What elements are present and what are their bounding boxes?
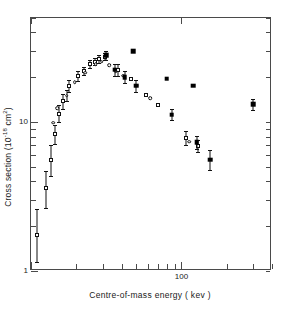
error-cap-lower bbox=[195, 149, 199, 150]
data-point-open-circles bbox=[73, 81, 77, 85]
data-point-open-squares bbox=[44, 186, 48, 190]
x-tick-200 bbox=[227, 264, 228, 269]
error-cap-lower bbox=[88, 68, 92, 69]
error-cap-upper bbox=[53, 125, 57, 126]
error-cap-upper bbox=[251, 99, 255, 100]
error-cap-lower bbox=[196, 152, 200, 153]
x-tick-400 bbox=[272, 264, 273, 269]
error-cap-lower bbox=[123, 83, 127, 84]
error-cap-upper bbox=[44, 171, 48, 172]
error-cap-lower bbox=[251, 110, 255, 111]
y-tick-20 bbox=[31, 77, 36, 78]
error-cap-upper bbox=[123, 71, 127, 72]
x-tick-100 bbox=[181, 262, 182, 269]
y-tick-2 bbox=[31, 226, 36, 227]
data-point-filled-squares bbox=[194, 140, 199, 145]
data-point-filled-squares bbox=[122, 75, 127, 80]
y-tick-right-8 bbox=[266, 137, 270, 138]
error-cap-upper bbox=[35, 209, 39, 210]
error-cap-upper bbox=[67, 80, 71, 81]
error-cap-upper bbox=[93, 58, 97, 59]
error-cap-lower bbox=[116, 76, 120, 77]
y-tick-6 bbox=[31, 155, 36, 156]
y-tick-right-6 bbox=[266, 155, 270, 156]
y-tick-1 bbox=[31, 271, 38, 272]
error-cap-upper bbox=[82, 67, 86, 68]
y-tick-30 bbox=[31, 51, 36, 52]
data-point-open-squares bbox=[129, 77, 133, 81]
error-cap-upper bbox=[208, 150, 212, 151]
figure-scatter-plot: Cross section (10-18 cm2) Centre-of-mass… bbox=[0, 0, 284, 313]
x-tick-20 bbox=[76, 264, 77, 269]
error-cap-upper bbox=[49, 145, 53, 146]
data-point-open-squares bbox=[76, 74, 80, 78]
error-cap-upper bbox=[76, 71, 80, 72]
y-tick-40 bbox=[31, 32, 36, 33]
x-tick-40 bbox=[122, 264, 123, 269]
error-cap-lower bbox=[53, 144, 57, 145]
y-tick-7 bbox=[31, 145, 36, 146]
y-tick-right-30 bbox=[266, 51, 270, 52]
data-point-filled-squares bbox=[251, 102, 256, 107]
y-tick-8 bbox=[31, 137, 36, 138]
data-point-open-squares bbox=[35, 233, 39, 237]
error-cap-upper bbox=[134, 80, 138, 81]
error-cap-lower bbox=[184, 145, 188, 146]
error-cap-lower bbox=[49, 176, 53, 177]
data-point-open-circles bbox=[52, 121, 56, 125]
error-cap-upper bbox=[184, 131, 188, 132]
y-tick-label-1: 1 bbox=[24, 267, 28, 275]
y-tick-right-1 bbox=[266, 271, 270, 272]
error-cap-upper bbox=[113, 64, 117, 65]
error-cap-lower bbox=[65, 101, 69, 102]
error-cap-lower bbox=[104, 60, 108, 61]
y-tick-right-10 bbox=[266, 122, 270, 123]
y-axis-title-close: ) bbox=[3, 107, 13, 110]
x-tick-50 bbox=[136, 264, 137, 269]
x-tick-top-100 bbox=[181, 18, 182, 24]
y-tick-label-10: 10 bbox=[19, 118, 28, 126]
error-cap-lower bbox=[44, 208, 48, 209]
data-point-open-squares bbox=[88, 62, 92, 66]
error-cap-lower bbox=[35, 262, 39, 263]
data-point-open-circles bbox=[56, 106, 60, 110]
error-cap-upper bbox=[104, 51, 108, 52]
error-cap-lower bbox=[57, 122, 61, 123]
error-cap-lower bbox=[170, 120, 174, 121]
y-tick-right-40 bbox=[266, 32, 270, 33]
y-axis-title-unit-exponent: 2 bbox=[2, 110, 8, 114]
data-point-open-squares bbox=[144, 93, 148, 97]
y-tick-4 bbox=[31, 181, 36, 182]
y-tick-3 bbox=[31, 200, 36, 201]
error-cap-upper bbox=[61, 94, 65, 95]
error-cap-upper bbox=[97, 55, 101, 56]
data-point-open-squares bbox=[156, 103, 160, 107]
error-cap-lower bbox=[208, 170, 212, 171]
y-axis-title: Cross section (10-18 cm2) bbox=[1, 107, 13, 207]
data-point-open-circles bbox=[94, 62, 98, 66]
y-axis-title-suffix: cm bbox=[3, 113, 13, 127]
plot-frame: 110 100 bbox=[30, 17, 271, 270]
data-point-open-circles bbox=[100, 60, 104, 64]
data-point-open-squares bbox=[53, 132, 57, 136]
error-cap-lower bbox=[61, 109, 65, 110]
y-tick-right-50 bbox=[266, 18, 270, 19]
data-point-open-circles bbox=[107, 64, 111, 68]
data-point-open-squares bbox=[49, 158, 53, 162]
data-point-open-circles bbox=[188, 140, 192, 144]
data-point-open-circles bbox=[65, 94, 69, 98]
error-cap-upper bbox=[170, 109, 174, 110]
error-cap-upper bbox=[88, 60, 92, 61]
data-point-open-squares bbox=[67, 84, 71, 88]
data-point-filled-squares bbox=[134, 84, 139, 89]
x-tick-90 bbox=[175, 264, 176, 269]
y-tick-9 bbox=[31, 129, 36, 130]
data-point-filled-squares bbox=[208, 157, 213, 162]
y-tick-right-4 bbox=[266, 181, 270, 182]
x-tick-label-100: 100 bbox=[175, 273, 188, 281]
y-tick-right-7 bbox=[266, 145, 270, 146]
data-point-filled-squares bbox=[112, 67, 117, 72]
x-tick-30 bbox=[103, 264, 104, 269]
data-point-filled-squares bbox=[191, 84, 196, 89]
error-cap-lower bbox=[134, 92, 138, 93]
